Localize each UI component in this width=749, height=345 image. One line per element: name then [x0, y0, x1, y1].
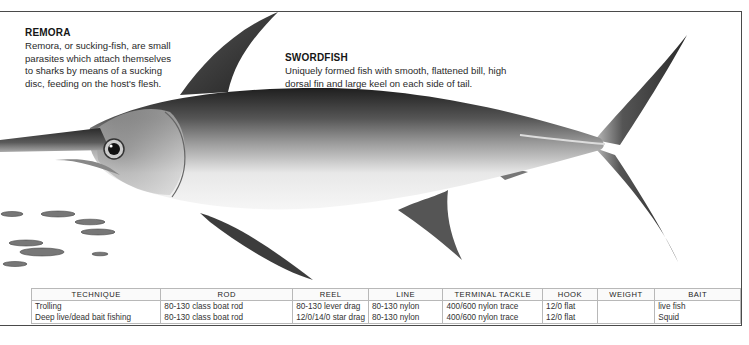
- header-terminal-tackle: TERMINAL TACKLE: [443, 289, 543, 301]
- tackle-table: TECHNIQUE ROD REEL LINE TERMINAL TACKLE …: [31, 288, 741, 324]
- table-row: Trolling 80-130 class boat rod 80-130 le…: [32, 301, 741, 313]
- eye: [104, 139, 124, 159]
- header-technique: TECHNIQUE: [32, 289, 161, 301]
- cell-line: 80-130 nylon: [368, 301, 443, 313]
- cell-bait: Squid: [655, 312, 741, 324]
- bill: [0, 128, 110, 152]
- fish-body: [89, 88, 604, 209]
- header-rod: ROD: [161, 289, 293, 301]
- header-reel: REEL: [293, 289, 369, 301]
- cell-weight: [597, 312, 655, 324]
- cell-reel: 80-130 lever drag: [293, 301, 369, 313]
- header-weight: WEIGHT: [597, 289, 655, 301]
- pectoral-fin: [200, 213, 313, 280]
- swordfish-description: Uniquely formed fish with smooth, flatte…: [285, 65, 525, 90]
- table-row: Deep live/dead bait fishing 80-130 class…: [32, 312, 741, 324]
- cell-line: 80-130 nylon: [368, 312, 443, 324]
- cell-technique: Deep live/dead bait fishing: [32, 312, 161, 324]
- cell-bait: live fish: [655, 301, 741, 313]
- cell-weight: [597, 301, 655, 313]
- header-bait: BAIT: [655, 289, 741, 301]
- header-hook: HOOK: [543, 289, 598, 301]
- dorsal-fin: [180, 12, 278, 95]
- anal-fin: [398, 190, 462, 260]
- cell-terminal-tackle: 400/600 nylon trace: [443, 312, 543, 324]
- cell-hook: 12/0 flat: [543, 301, 598, 313]
- header-line: LINE: [368, 289, 443, 301]
- tail-upper-lobe: [595, 35, 687, 145]
- tail-lower-lobe: [595, 148, 678, 262]
- cell-hook: 12/0 flat: [543, 312, 598, 324]
- cell-technique: Trolling: [32, 301, 161, 313]
- remora-school: [1, 211, 115, 267]
- swordfish-caption: SWORDFISH Uniquely formed fish with smoo…: [285, 52, 525, 90]
- remora-caption: REMORA Remora, or sucking-fish, are smal…: [25, 27, 175, 90]
- cell-rod: 80-130 class boat rod: [161, 301, 293, 313]
- table-header-row: TECHNIQUE ROD REEL LINE TERMINAL TACKLE …: [32, 289, 741, 301]
- remora-description: Remora, or sucking-fish, are small paras…: [25, 40, 175, 90]
- cell-reel: 12/0/14/0 star drag: [293, 312, 369, 324]
- cell-terminal-tackle: 400/600 nylon trace: [443, 301, 543, 313]
- swordfish-title: SWORDFISH: [285, 52, 525, 63]
- frame-right-rule: [741, 11, 742, 325]
- cell-rod: 80-130 class boat rod: [161, 312, 293, 324]
- frame-bottom-rule: [0, 325, 742, 326]
- remora-title: REMORA: [25, 27, 175, 38]
- frame-top-rule: [0, 11, 742, 12]
